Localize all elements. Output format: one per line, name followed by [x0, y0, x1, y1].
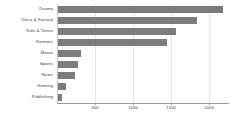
bar-fill [57, 39, 167, 46]
category-label: Gaming [0, 84, 53, 88]
category-label: Publishing [0, 95, 53, 99]
bar [57, 6, 223, 13]
x-tick-label: 500 [91, 106, 98, 110]
bar-fill [57, 61, 78, 68]
bar [57, 61, 78, 68]
plot-area [57, 4, 229, 103]
bar-fill [57, 28, 176, 35]
bar-fill [57, 17, 197, 24]
bar [57, 39, 167, 46]
bar-fill [57, 50, 81, 57]
bar-fill [57, 72, 75, 79]
category-label: Docu & Factual [0, 18, 53, 22]
x-tick-labels: 500100015002000 [57, 106, 229, 116]
category-axis: DramaDocu & FactualKids & TeensFormatsMo… [0, 4, 57, 103]
bar [57, 50, 81, 57]
category-label: Drama [0, 7, 53, 11]
gridline [209, 4, 210, 103]
category-label: Kids & Teens [0, 29, 53, 33]
bar-chart: DramaDocu & FactualKids & TeensFormatsMo… [0, 0, 232, 121]
bar [57, 28, 176, 35]
x-tick-label: 1000 [128, 106, 138, 110]
bar [57, 17, 197, 24]
x-tick-label: 2000 [204, 106, 214, 110]
category-label: Formats [0, 40, 53, 44]
x-tick-label: 1500 [166, 106, 176, 110]
bar-fill [57, 83, 66, 90]
x-axis-line [57, 103, 229, 104]
category-label: Movie [0, 51, 53, 55]
bar [57, 72, 75, 79]
y-axis-line [57, 4, 58, 103]
bar [57, 83, 66, 90]
category-label: News [0, 73, 53, 77]
bar-fill [57, 6, 223, 13]
category-label: Sports [0, 62, 53, 66]
